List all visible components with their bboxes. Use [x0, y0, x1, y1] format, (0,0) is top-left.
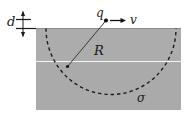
figure-canvas: d q v R σ: [0, 0, 191, 117]
radius-label: R: [93, 43, 104, 58]
velocity-arrowhead: [121, 18, 127, 23]
surface-charge-label: σ: [137, 91, 146, 105]
velocity-label: v: [130, 13, 137, 27]
charge-label: q: [96, 6, 104, 20]
radius-arc-intersection-point: [66, 65, 69, 68]
slab-shading-lower: [36, 62, 181, 110]
gap-label: d: [7, 14, 15, 29]
gap-dimension-arrowhead-top: [21, 11, 25, 16]
physics-figure: d q v R σ: [0, 0, 191, 117]
point-charge-dot: [104, 18, 108, 22]
gap-dimension-arrowhead-bottom: [21, 32, 25, 37]
